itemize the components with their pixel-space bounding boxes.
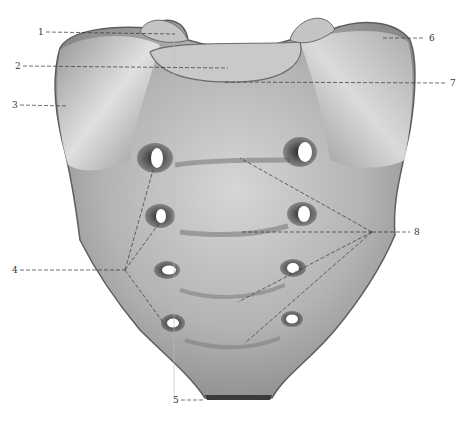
label-4: 4 (12, 266, 18, 275)
label-5: 5 (173, 396, 179, 405)
label-3: 3 (12, 101, 18, 110)
label-1: 1 (38, 28, 44, 37)
sacrum-illustration (0, 0, 470, 421)
label-7: 7 (450, 79, 456, 88)
sacrum-body (55, 18, 415, 400)
label-8: 8 (414, 228, 420, 237)
label-2: 2 (15, 62, 21, 71)
label-6: 6 (429, 34, 435, 43)
